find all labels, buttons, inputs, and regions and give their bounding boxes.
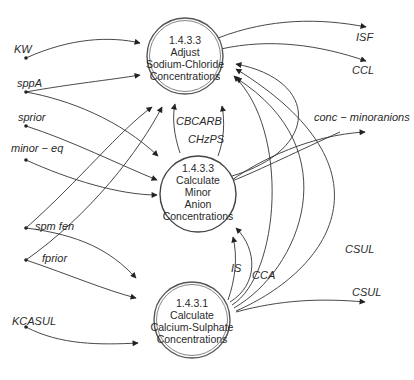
process-minor-line3: Anion: [185, 198, 212, 210]
process-adjust-id: 1.4.3.3: [169, 34, 201, 46]
label-ccl: CCL: [352, 64, 374, 76]
edge-adjust-to-isf: [218, 21, 366, 38]
source-dot-kw: [24, 56, 28, 60]
process-adjust-line2: Sodium-Chloride: [146, 58, 224, 70]
label-kcasul: KCASUL: [12, 315, 56, 327]
label-csul-out: CSUL: [352, 286, 381, 298]
process-adjust-line3: Concentrations: [150, 70, 221, 82]
label-spm-fen: spm fen: [35, 220, 74, 232]
edge-fprior-to-adjust: [26, 107, 162, 260]
process-minor-line1: Calculate: [176, 174, 220, 186]
label-isf: ISF: [356, 31, 374, 43]
label-cbcarb: CBCARB: [176, 115, 222, 127]
process-calcium-line2: Calcium-Sulphate: [151, 321, 234, 333]
label-csul-mid: CSUL: [345, 243, 374, 255]
process-adjust-line1: Adjust: [170, 46, 199, 58]
label-kw: KW: [14, 43, 33, 55]
source-dot-fprior: [24, 258, 28, 262]
edge-kcasul-to-calcium: [26, 327, 138, 344]
edge-minor-to-adjust-cbcarb: [174, 104, 180, 153]
process-calcium-line3: Concentrations: [157, 333, 228, 345]
source-dot-spmfen: [24, 226, 28, 230]
edge-spmfen-to-adjust: [26, 107, 152, 228]
process-minor-id: 1.4.3.3: [182, 162, 214, 174]
label-is: IS: [231, 262, 242, 274]
edge-kw-to-adjust: [26, 39, 140, 58]
edge-minor-to-adjust-loop: [232, 64, 299, 176]
process-minor-anion: 1.4.3.3 Calculate Minor Anion Concentrat…: [160, 156, 236, 232]
process-calcium-id: 1.4.3.1: [176, 297, 208, 309]
process-calcium-sulphate: 1.4.3.1 Calculate Calcium-Sulphate Conce…: [151, 282, 234, 358]
edge-sppa-to-adjust: [26, 75, 140, 92]
edge-fprior-to-calcium: [26, 260, 136, 298]
label-sppa: sppA: [17, 77, 42, 89]
process-adjust-sodium-chloride: 1.4.3.3 Adjust Sodium-Chloride Concentra…: [146, 18, 224, 94]
source-dots: [24, 56, 28, 329]
label-minor-eq: minor − eq: [11, 142, 64, 154]
process-calcium-line1: Calculate: [170, 309, 214, 321]
label-fprior: fprior: [42, 252, 68, 264]
source-dot-sprior: [24, 124, 28, 128]
label-conc-minoranions: conc − minoranions: [314, 111, 410, 123]
label-chzps: CHzPS: [188, 133, 225, 145]
data-flow-diagram: 1.4.3.3 Adjust Sodium-Chloride Concentra…: [0, 0, 414, 380]
label-cca: CCA: [252, 269, 275, 281]
edge-minor-to-concminor-2: [232, 132, 340, 181]
label-sprior: sprior: [18, 111, 47, 123]
source-dot-sppa: [24, 90, 28, 94]
edge-minoreq-to-minor: [26, 160, 157, 195]
process-minor-line2: Minor: [185, 186, 212, 198]
edge-minor-to-adjust-chzps: [218, 106, 224, 156]
source-dot-minoreq: [24, 158, 28, 162]
process-minor-line4: Concentrations: [163, 210, 234, 222]
edge-adjust-to-ccl: [221, 44, 366, 61]
